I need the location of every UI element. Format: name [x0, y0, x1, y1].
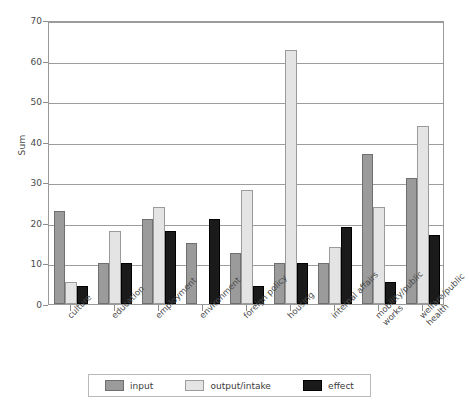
y-tick-label: 20 [16, 219, 42, 229]
legend-label: effect [328, 381, 354, 391]
bar-output-intake-culture [65, 282, 76, 304]
y-tick-label: 0 [16, 300, 42, 310]
y-tick-label: 70 [16, 16, 42, 26]
y-tick-label: 60 [16, 57, 42, 67]
plot-area [48, 21, 444, 305]
legend-label: input [130, 381, 153, 391]
bar-output-intake-foreign-policy [241, 190, 252, 304]
bar-output-intake-mobility-public-works [373, 207, 384, 304]
legend-item-effect[interactable]: effect [303, 380, 354, 391]
y-tick-label: 40 [16, 138, 42, 148]
bar-output-intake-education [109, 231, 120, 304]
y-tick-label: 50 [16, 97, 42, 107]
y-tick-label: 10 [16, 259, 42, 269]
bar-input-culture [54, 211, 65, 304]
bar-output-intake-internal-affairs [329, 247, 340, 304]
legend-item-input[interactable]: input [105, 380, 153, 391]
x-axis-labels: cultureeducationemploymentenvironmentfor… [0, 312, 459, 372]
y-tick-label: 30 [16, 178, 42, 188]
y-tick-mark [43, 305, 48, 306]
legend-swatch-output [185, 380, 204, 391]
chart-legend: inputoutput/intakeeffect [88, 374, 371, 397]
bar-output-intake-housing [285, 50, 296, 304]
legend-item-output[interactable]: output/intake [185, 380, 270, 391]
bar-input-education [98, 263, 109, 304]
bars-layer [49, 22, 443, 304]
bar-input-environment [186, 243, 197, 304]
legend-swatch-effect [303, 380, 322, 391]
legend-label: output/intake [210, 381, 270, 391]
bar-input-internal-affairs [318, 263, 329, 304]
y-axis-ticks: 010203040506070 [10, 21, 42, 305]
legend-swatch-input [105, 380, 124, 391]
bar-output-intake-employment [153, 207, 164, 304]
